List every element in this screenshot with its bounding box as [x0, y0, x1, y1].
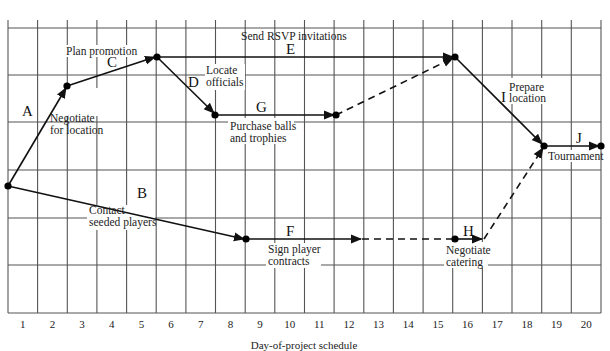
x-tick: 15: [432, 318, 444, 330]
node-end: [597, 142, 604, 149]
activity-a-arrow: [8, 88, 66, 186]
node-before-h: [451, 235, 458, 242]
x-tick: 14: [403, 318, 415, 330]
x-tick: 7: [198, 318, 204, 330]
x-tick: 16: [462, 318, 474, 330]
x-tick: 2: [50, 318, 56, 330]
x-tick: 5: [139, 318, 145, 330]
activity-g-letter: G: [256, 99, 267, 115]
activity-b-letter: B: [137, 185, 147, 201]
x-tick: 20: [581, 318, 593, 330]
x-tick: 9: [257, 318, 263, 330]
node-after-d: [211, 111, 218, 118]
x-tick: 17: [492, 318, 504, 330]
activity-f-letter: F: [286, 223, 294, 239]
slack-h-to-j: [484, 148, 543, 239]
activity-i-desc-2: location: [509, 92, 546, 104]
node-after-g: [332, 111, 339, 118]
activity-b-arrow: [8, 186, 244, 239]
node-after-e: [451, 53, 458, 60]
x-tick: 8: [228, 318, 234, 330]
x-tick: 19: [551, 318, 563, 330]
activity-h-letter: H: [463, 223, 474, 239]
x-tick: 12: [344, 318, 355, 330]
network-diagram: A B C D E F G H I J Negotiate for locati…: [0, 0, 610, 351]
activity-i-letter: I: [501, 89, 506, 105]
activity-d-desc-1: Locate: [206, 64, 237, 76]
activity-g-desc-1: Purchase balls: [230, 120, 297, 132]
activity-b-desc-1: Contact: [89, 204, 126, 216]
activity-j-letter: J: [576, 130, 582, 146]
node-after-c: [153, 53, 160, 60]
x-tick: 11: [314, 318, 325, 330]
x-tick: 18: [521, 318, 533, 330]
activity-e-letter: E: [286, 41, 295, 57]
activity-j-desc-1: Tournament: [548, 150, 604, 162]
x-tick: 1: [20, 318, 26, 330]
activity-d-letter: D: [188, 74, 199, 90]
x-tick: 10: [284, 318, 296, 330]
activity-g-desc-2: and trophies: [230, 132, 287, 145]
x-tick: 6: [168, 318, 174, 330]
activity-b-desc-2: seeded players: [89, 216, 157, 229]
x-tick: 4: [109, 318, 115, 330]
activity-e-desc-1: Send RSVP invitations: [241, 30, 347, 42]
node-after-a: [63, 82, 70, 89]
activity-f-desc-2: contracts: [268, 255, 310, 267]
activity-a-letter: A: [22, 103, 33, 119]
activity-c-desc-1: Plan promotion: [66, 45, 137, 58]
node-start: [4, 182, 11, 189]
slack-g-to-i: [336, 58, 453, 115]
x-axis-ticks: 1 2 3 4 5 6 7 8 9 10 11 12 13 14 15 16 1…: [20, 318, 592, 330]
activity-h-desc-2: catering: [446, 256, 483, 269]
schedule-grid: [8, 20, 601, 313]
x-tick: 3: [79, 318, 85, 330]
activity-a-desc-2: for location: [50, 124, 104, 136]
x-tick: 13: [373, 318, 385, 330]
node-after-i: [540, 142, 547, 149]
activity-d-desc-2: officials: [206, 76, 244, 88]
x-axis-label: Day-of-project schedule: [251, 339, 358, 351]
activity-descriptions: Negotiate for location Contact seeded pl…: [50, 30, 604, 269]
node-after-b: [242, 235, 249, 242]
